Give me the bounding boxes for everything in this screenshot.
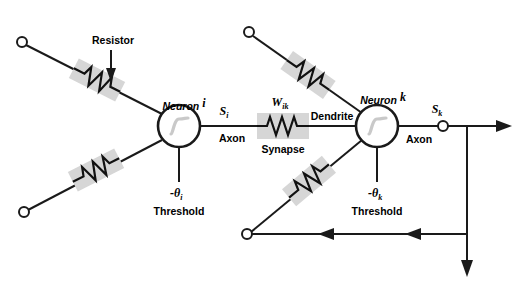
s-i-label: Si bbox=[220, 104, 230, 120]
input-terminal-top-left[interactable] bbox=[17, 37, 27, 47]
diagram-canvas: Resistor Neuroni -θi Threshold Si Axon bbox=[0, 0, 518, 282]
resistor-highlight-box bbox=[68, 148, 124, 191]
resistor-highlight-box bbox=[280, 51, 335, 99]
theta-k-subscript: k bbox=[378, 193, 382, 202]
s-i-subscript: i bbox=[226, 111, 229, 120]
arrow-left-icon bbox=[318, 228, 334, 240]
synapse-resistor[interactable] bbox=[257, 113, 309, 139]
neuron-k-threshold: -θk Threshold bbox=[352, 147, 403, 217]
s-k-subscript: k bbox=[438, 109, 442, 118]
theta-i-label: -θi bbox=[170, 186, 183, 202]
neuron-i-label: Neuroni bbox=[162, 96, 206, 112]
neuron-k-label: Neuronk bbox=[360, 90, 406, 106]
neural-network-diagram: Resistor Neuroni -θi Threshold Si Axon bbox=[0, 0, 518, 282]
resistor-bottom-right[interactable] bbox=[282, 156, 336, 206]
input-terminal-top-right[interactable] bbox=[244, 27, 254, 37]
input-terminal-bottom-right[interactable] bbox=[242, 229, 252, 239]
neuron-k-word: Neuron bbox=[360, 94, 397, 106]
theta-i-subscript: i bbox=[180, 193, 183, 202]
neuron-k-body[interactable] bbox=[356, 105, 398, 147]
neuron-i-word: Neuron bbox=[162, 100, 199, 112]
neuron-k[interactable] bbox=[356, 105, 398, 147]
arrow-left-icon bbox=[405, 228, 421, 240]
axon-k-output bbox=[398, 120, 512, 132]
neuron-k-index: k bbox=[400, 90, 406, 104]
threshold-label-left: Threshold bbox=[154, 205, 205, 217]
resistor-highlight-box bbox=[69, 58, 125, 101]
w-ik-label: Wik bbox=[272, 95, 289, 111]
resistor-label: Resistor bbox=[92, 34, 134, 46]
resistor-bottom-left[interactable] bbox=[68, 148, 124, 191]
resistor-top-left[interactable] bbox=[69, 58, 125, 101]
arrow-right-icon bbox=[496, 120, 512, 132]
threshold-label-right: Threshold bbox=[352, 205, 403, 217]
neuron-i-threshold: -θi Threshold bbox=[154, 147, 205, 217]
axon-label-left: Axon bbox=[219, 132, 245, 144]
axon-label-right: Axon bbox=[406, 133, 432, 145]
w-ik-subscript: ik bbox=[282, 102, 288, 111]
resistor-top-right[interactable] bbox=[280, 51, 335, 99]
s-k-label: Sk bbox=[432, 102, 443, 118]
input-terminal-bottom-left[interactable] bbox=[19, 207, 29, 217]
dendrite-label: Dendrite bbox=[311, 110, 354, 122]
neuron-i-index: i bbox=[202, 96, 206, 110]
synapse-label: Synapse bbox=[261, 143, 304, 155]
output-terminal-sk[interactable] bbox=[438, 121, 448, 131]
theta-k-label: -θk bbox=[368, 186, 382, 202]
resistor-highlight-box bbox=[282, 156, 336, 206]
arrow-down-icon bbox=[461, 260, 473, 277]
